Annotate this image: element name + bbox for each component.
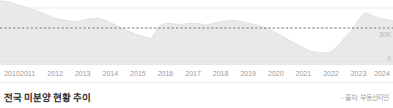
- footer-divider: [0, 82, 393, 83]
- area-series-fill: [0, 1, 393, 63]
- chart-plot-area: 50K 0: [0, 0, 393, 64]
- x-axis-tick-2017: 2017: [185, 69, 201, 79]
- x-axis-tick-2010: 2010: [4, 69, 20, 79]
- x-axis-tick-2023: 2023: [351, 69, 367, 79]
- x-axis-tick-2021: 2021: [296, 69, 312, 79]
- x-axis-tick-2018: 2018: [213, 69, 229, 79]
- x-axis-tick-2024: 2024: [374, 69, 390, 79]
- x-axis-tick-2015: 2015: [130, 69, 146, 79]
- x-axis-tick-2014: 2014: [103, 69, 119, 79]
- chart-footer: 전국 미분양 현황 추이 - 출처: 부동산지인: [0, 86, 393, 108]
- area-chart-svg: [0, 0, 393, 64]
- chart-widget: 50K 0 2010201120122013201420152016201720…: [0, 0, 393, 108]
- x-axis-tick-2020: 2020: [268, 69, 284, 79]
- x-axis-tick-2012: 2012: [47, 69, 63, 79]
- x-axis-tick-2016: 2016: [158, 69, 174, 79]
- y-axis-label-zero: 0: [387, 55, 391, 63]
- chart-source: - 출처: 부동산지인: [341, 92, 389, 102]
- x-axis-tick-2019: 2019: [240, 69, 256, 79]
- x-axis: 2010201120122013201420152016201720182019…: [0, 64, 393, 83]
- x-axis-tick-2013: 2013: [75, 69, 91, 79]
- x-axis-tick-2022: 2022: [323, 69, 339, 79]
- x-axis-tick-2011: 2011: [20, 69, 35, 79]
- chart-title: 전국 미분양 현황 추이: [4, 90, 91, 104]
- y-axis-label-50k: 50K: [379, 31, 391, 39]
